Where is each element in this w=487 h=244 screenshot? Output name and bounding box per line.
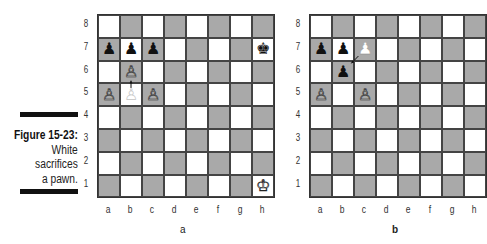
square-g8 [442, 15, 464, 38]
square-g3 [442, 129, 464, 152]
square-h8 [464, 15, 486, 38]
square-f3 [420, 129, 442, 152]
square-h6 [464, 61, 486, 84]
square-h7 [464, 38, 486, 61]
file-label: f [421, 204, 440, 215]
square-g1 [442, 175, 464, 198]
file-label: h [465, 204, 484, 215]
square-f5 [420, 83, 442, 106]
square-g4 [442, 106, 464, 129]
square-g5 [442, 83, 464, 106]
square-f7 [420, 38, 442, 61]
square-h1 [464, 175, 486, 198]
square-h4 [464, 106, 486, 129]
file-label: g [443, 204, 462, 215]
square-g2 [442, 152, 464, 175]
square-f8 [420, 15, 442, 38]
square-g7 [442, 38, 464, 61]
square-f1 [420, 175, 442, 198]
square-f4 [420, 106, 442, 129]
square-h2 [464, 152, 486, 175]
square-f6 [420, 61, 442, 84]
square-g6 [442, 61, 464, 84]
square-h3 [464, 129, 486, 152]
square-f2 [420, 152, 442, 175]
square-h5 [464, 83, 486, 106]
